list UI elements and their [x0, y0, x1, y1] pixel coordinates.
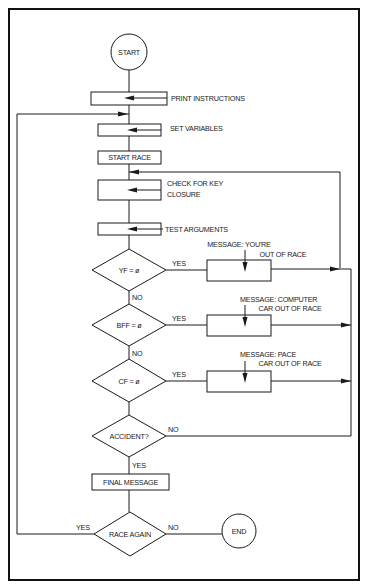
- msg-computer-label-2: CAR OUT OF RACE: [258, 304, 322, 313]
- yf-label: YF = ø: [119, 266, 140, 275]
- print-instructions-label: PRINT INSTRUCTIONS: [171, 94, 245, 103]
- start-node: START: [111, 34, 147, 70]
- accident-decision: ACCIDENT?: [92, 415, 166, 457]
- bff-no-label: NO: [132, 349, 143, 358]
- check-key-label-1: CHECK FOR KEY: [167, 179, 224, 188]
- msg-computer-label-1: MESSAGE: COMPUTER: [240, 295, 317, 304]
- yf-no-label: NO: [132, 293, 143, 302]
- flowchart: START PRINT INSTRUCTIONS SET VARIABLES S…: [0, 0, 366, 586]
- accident-yes-label: YES: [132, 461, 146, 470]
- check-key-node: CHECK FOR KEY CLOSURE: [98, 179, 224, 200]
- msg-you-label-2: OUT OF RACE: [260, 250, 307, 259]
- msg-computer-node: MESSAGE: COMPUTER CAR OUT OF RACE: [207, 295, 322, 336]
- set-variables-node: SET VARIABLES: [98, 124, 223, 136]
- cf-label: CF = ø: [119, 377, 141, 386]
- set-variables-label: SET VARIABLES: [170, 124, 223, 133]
- bff-label: BFF = ø: [117, 321, 143, 330]
- msg-pace-node: MESSAGE: PACE CAR OUT OF RACE: [207, 350, 322, 392]
- race-again-no-label: NO: [168, 523, 179, 532]
- start-race-node: START RACE: [98, 151, 161, 164]
- race-again-yes-label: YES: [76, 523, 90, 532]
- accident-no-label: NO: [168, 425, 179, 434]
- msg-pace-label-1: MESSAGE: PACE: [240, 350, 296, 359]
- bff-yes-label: YES: [172, 314, 186, 323]
- final-message-label: FINAL MESSAGE: [103, 478, 158, 487]
- yf-decision: YF = ø: [92, 249, 166, 291]
- check-key-label-2: CLOSURE: [167, 190, 201, 199]
- race-again-label: RACE AGAIN: [109, 530, 151, 539]
- cf-yes-label: YES: [172, 370, 186, 379]
- end-label: END: [232, 527, 247, 536]
- accident-label: ACCIDENT?: [110, 432, 149, 441]
- bff-decision: BFF = ø: [92, 304, 166, 346]
- cf-decision: CF = ø: [92, 359, 166, 402]
- msg-pace-label-2: CAR OUT OF RACE: [258, 359, 322, 368]
- test-arguments-node: TEST ARGUMENTS: [98, 223, 228, 235]
- yf-yes-label: YES: [172, 259, 186, 268]
- print-instructions-node: PRINT INSTRUCTIONS: [91, 92, 245, 105]
- start-race-label: START RACE: [108, 153, 151, 162]
- start-label: START: [118, 48, 141, 57]
- final-message-node: FINAL MESSAGE: [92, 474, 169, 490]
- msg-you-node: MESSAGE: YOU'RE OUT OF RACE: [207, 240, 307, 281]
- test-arguments-label: TEST ARGUMENTS: [165, 225, 228, 234]
- end-node: END: [222, 514, 256, 548]
- race-again-decision: RACE AGAIN: [94, 512, 166, 556]
- msg-you-label-1: MESSAGE: YOU'RE: [207, 240, 271, 249]
